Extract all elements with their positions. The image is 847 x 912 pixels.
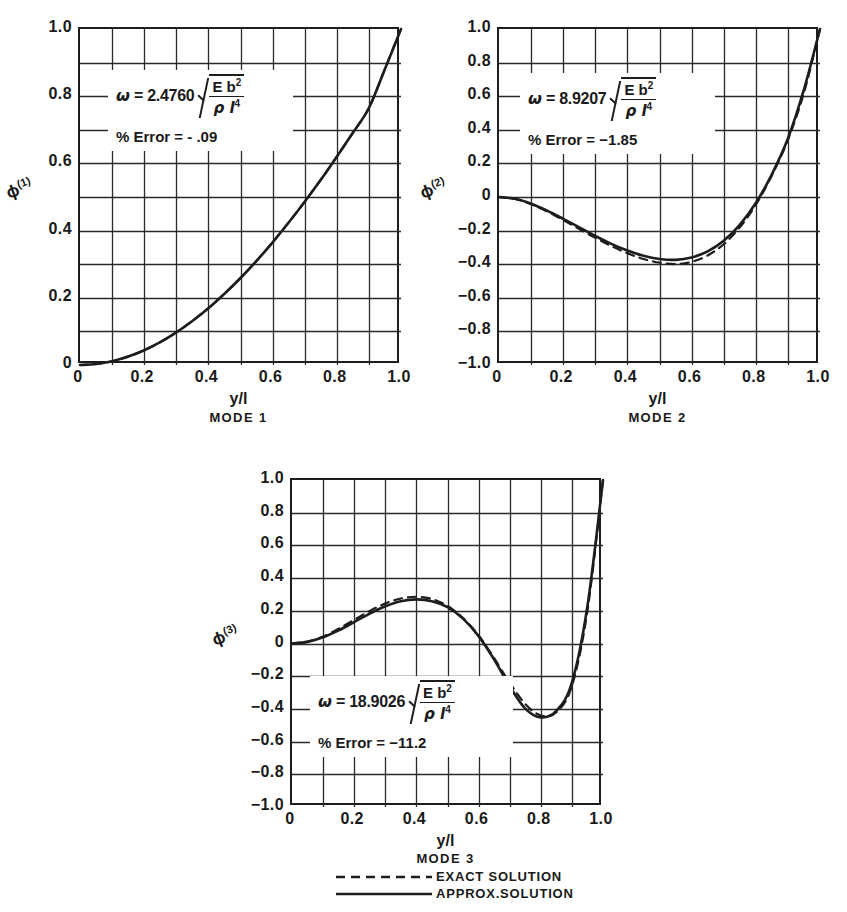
omega-equation-mode1: ω = 2.4760 E b2 ρ l4 bbox=[116, 74, 285, 118]
equals-sign: = bbox=[546, 90, 555, 108]
legend-item-exact: EXACT SOLUTION bbox=[336, 868, 574, 885]
error-text-mode1: % Error = - .09 bbox=[116, 128, 285, 145]
ytick-label: 0.4 bbox=[261, 567, 284, 585]
xlabel-text: y/l bbox=[649, 390, 667, 407]
xtick-label: 0.8 bbox=[323, 368, 346, 386]
equals-sign: = bbox=[134, 87, 143, 105]
omega-symbol: ω bbox=[116, 87, 130, 105]
xlabel-mode1: y/l bbox=[78, 390, 399, 408]
mode-shapes-figure: 1.00.80.60.40.20 00.20.40.60.81.0 ϕ(1) y… bbox=[0, 0, 847, 912]
xticks-mode2: 00.20.40.60.81.0 bbox=[497, 368, 818, 390]
annotation-mode2: ω = 8.9207 E b2 ρ l4 % Error = −1.85 bbox=[520, 73, 715, 154]
ytick-label: 0.4 bbox=[468, 119, 491, 137]
omega-equation-mode3: ω = 18.9026 E b2 ρ l4 bbox=[318, 680, 505, 724]
omega-symbol: ω bbox=[528, 90, 542, 108]
xtick-label: 1.0 bbox=[589, 810, 612, 828]
xtick-label: 0.2 bbox=[130, 368, 153, 386]
modelabel-mode2: MODE 2 bbox=[497, 410, 818, 425]
xtick-label: 0.8 bbox=[527, 810, 550, 828]
ytick-label: 0 bbox=[63, 354, 72, 372]
xticks-mode1: 00.20.40.60.81.0 bbox=[78, 368, 399, 390]
ytick-label: −1.0 bbox=[458, 354, 491, 372]
xlabel-mode3: y/l bbox=[290, 832, 601, 850]
panel-mode1: 1.00.80.60.40.20 00.20.40.60.81.0 ϕ(1) y… bbox=[0, 0, 420, 440]
fraction-denominator: ρ l4 bbox=[420, 703, 455, 723]
ytick-label: −0.2 bbox=[458, 220, 491, 238]
error-text-mode3: % Error = −11.2 bbox=[318, 734, 505, 751]
ytick-label: 0.8 bbox=[468, 52, 491, 70]
fraction: E b2 ρ l4 bbox=[209, 74, 244, 118]
ytick-label: 0.2 bbox=[261, 600, 284, 618]
ytick-label: 0.6 bbox=[49, 152, 72, 170]
fraction-denominator: ρ l4 bbox=[621, 100, 656, 120]
modelabel-text: MODE 1 bbox=[209, 410, 267, 425]
xtick-label: 1.0 bbox=[806, 368, 829, 386]
legend-label-approx: APPROX.SOLUTION bbox=[436, 886, 574, 901]
ytick-label: −0.2 bbox=[251, 665, 284, 683]
error-text-mode2: % Error = −1.85 bbox=[528, 131, 707, 148]
xlabel-text: y/l bbox=[437, 832, 455, 849]
annotation-mode3: ω = 18.9026 E b2 ρ l4 % Error = −11.2 bbox=[310, 676, 513, 757]
ytick-label: 1.0 bbox=[468, 18, 491, 36]
ytick-label: 0 bbox=[275, 633, 284, 651]
legend-item-approx: APPROX.SOLUTION bbox=[336, 885, 574, 902]
ytick-label: −0.4 bbox=[458, 253, 491, 271]
xlabel-text: y/l bbox=[230, 390, 248, 407]
annotation-mode1: ω = 2.4760 E b2 ρ l4 % Error = - .09 bbox=[108, 70, 293, 151]
modelabel-text: MODE 3 bbox=[416, 851, 474, 866]
xtick-label: 1.0 bbox=[387, 368, 410, 386]
ytick-label: −0.6 bbox=[251, 731, 284, 749]
ytick-label: 0 bbox=[482, 186, 491, 204]
xtick-label: 0.2 bbox=[549, 368, 572, 386]
xticks-mode3: 00.20.40.60.81.0 bbox=[290, 810, 601, 832]
fraction: E b2 ρ l4 bbox=[420, 680, 455, 724]
curves-mode3 bbox=[292, 480, 603, 807]
fraction-numerator: E b2 bbox=[420, 683, 455, 703]
omega-symbol: ω bbox=[318, 693, 332, 711]
ytick-label: 1.0 bbox=[261, 469, 284, 487]
xtick-label: 0.6 bbox=[678, 368, 701, 386]
ytick-label: 0.2 bbox=[49, 287, 72, 305]
ytick-label: 0.6 bbox=[261, 534, 284, 552]
xlabel-mode2: y/l bbox=[497, 390, 818, 408]
xtick-label: 0.2 bbox=[340, 810, 363, 828]
xtick-label: 0.8 bbox=[742, 368, 765, 386]
ytick-label: 0.6 bbox=[468, 85, 491, 103]
omega-coefficient: 2.4760 bbox=[147, 87, 194, 105]
xtick-label: 0.4 bbox=[403, 810, 426, 828]
ytick-label: −0.8 bbox=[251, 763, 284, 781]
modelabel-mode1: MODE 1 bbox=[78, 410, 399, 425]
fraction-numerator: E b2 bbox=[621, 80, 656, 100]
figure-legend: EXACT SOLUTION APPROX.SOLUTION bbox=[336, 868, 574, 902]
radical-sign: E b2 ρ l4 bbox=[407, 680, 455, 724]
yticks-mode1: 1.00.80.60.40.20 bbox=[28, 27, 72, 363]
ytick-label: −1.0 bbox=[251, 796, 284, 814]
xtick-label: 0.6 bbox=[465, 810, 488, 828]
ytick-label: 0.2 bbox=[468, 152, 491, 170]
ytick-label: −0.4 bbox=[251, 698, 284, 716]
xtick-label: 0.4 bbox=[195, 368, 218, 386]
ytick-label: 0.8 bbox=[49, 85, 72, 103]
xtick-label: 0 bbox=[73, 368, 82, 386]
fraction: E b2 ρ l4 bbox=[621, 77, 656, 121]
ytick-label: 0.8 bbox=[261, 502, 284, 520]
legend-label-exact: EXACT SOLUTION bbox=[436, 869, 562, 884]
modelabel-mode3: MODE 3 bbox=[290, 851, 601, 866]
xtick-label: 0.6 bbox=[259, 368, 282, 386]
modelabel-text: MODE 2 bbox=[628, 410, 686, 425]
ytick-label: −0.6 bbox=[458, 287, 491, 305]
ytick-label: −0.8 bbox=[458, 320, 491, 338]
omega-coefficient: 18.9026 bbox=[349, 693, 405, 711]
xtick-label: 0 bbox=[492, 368, 501, 386]
dashed-line-icon bbox=[336, 872, 432, 882]
radical-sign: E b2 ρ l4 bbox=[608, 77, 656, 121]
ytick-label: 1.0 bbox=[49, 18, 72, 36]
radical-sign: E b2 ρ l4 bbox=[196, 74, 244, 118]
xtick-label: 0 bbox=[285, 810, 294, 828]
fraction-numerator: E b2 bbox=[209, 77, 244, 97]
solid-line-icon bbox=[336, 889, 432, 899]
panel-mode2: 1.00.80.60.40.20−0.2−0.4−0.6−0.8−1.0 00.… bbox=[420, 0, 847, 440]
equals-sign: = bbox=[336, 693, 345, 711]
fraction-denominator: ρ l4 bbox=[209, 97, 244, 117]
omega-equation-mode2: ω = 8.9207 E b2 ρ l4 bbox=[528, 77, 707, 121]
